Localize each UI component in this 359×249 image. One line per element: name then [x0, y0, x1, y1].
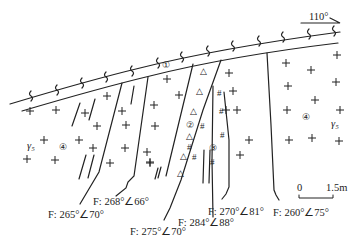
zone-1-label: ①	[162, 60, 170, 70]
svg-text:△: △	[186, 131, 193, 141]
svg-text:△: △	[177, 168, 184, 178]
fault-label-260: F: 260°∠75°	[273, 207, 329, 218]
geological-cross-section: △ △ △ △ △ △ # # # # # # # ① ② ③ ④ ④ γ₅ γ…	[0, 0, 359, 249]
rock-code-right: γ₅	[331, 118, 339, 129]
orientation-label: 110°	[309, 11, 329, 22]
fault-label-270: F: 270°∠81°	[208, 206, 264, 217]
band-lower-boundary	[22, 43, 338, 111]
svg-text:△: △	[200, 66, 207, 76]
zone-4-label-right: ④	[302, 112, 310, 122]
svg-text:#: #	[187, 142, 192, 152]
svg-text:#: #	[200, 121, 205, 131]
zone-4-label-left: ④	[59, 142, 67, 152]
band-upper-boundary	[10, 32, 340, 104]
svg-text:#: #	[192, 152, 197, 162]
svg-text:#: #	[220, 130, 225, 140]
fault-label-268: F: 268°∠66°	[93, 196, 149, 207]
svg-text:△: △	[190, 106, 197, 116]
zone-3-label: ③	[209, 143, 217, 153]
fault-260	[267, 53, 279, 200]
scale-bar-end: 1.5m	[326, 182, 347, 193]
rock-code-left: γ₅	[27, 140, 35, 151]
svg-text:#: #	[217, 88, 222, 98]
fault-265	[80, 83, 122, 204]
zone-2-label: ②	[186, 120, 194, 130]
svg-text:△: △	[180, 151, 187, 161]
fault-label-265: F: 265°∠70°	[48, 209, 104, 220]
scale-bar-start: 0	[297, 182, 302, 193]
scale-bar-line	[299, 195, 333, 198]
fault-label-284: F: 284°∠88°	[178, 217, 234, 228]
svg-text:#: #	[219, 106, 224, 116]
svg-text:#: #	[210, 157, 215, 167]
svg-text:△: △	[196, 86, 203, 96]
